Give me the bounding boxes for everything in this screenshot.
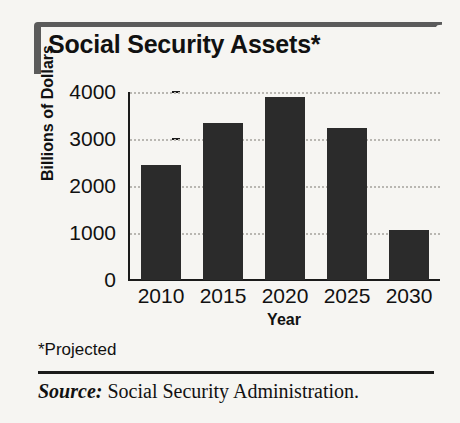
x-tick-label: 2020 xyxy=(254,284,316,308)
y-tick-label: 3000 xyxy=(69,128,116,149)
chart-title: Social Security Assets* xyxy=(48,30,320,59)
y-tick-label: 1000 xyxy=(69,222,116,243)
plot-area xyxy=(128,92,440,280)
y-tick-label: 2000 xyxy=(69,175,116,196)
bar xyxy=(141,165,181,280)
divider xyxy=(38,371,434,374)
source-line: Source: Social Security Administration. xyxy=(38,380,359,403)
source-label: Source: xyxy=(38,380,102,402)
x-axis-tick-labels: 20102015202020252030 xyxy=(128,284,440,310)
x-axis-label: Year xyxy=(128,311,440,329)
bar xyxy=(389,230,429,280)
x-tick-label: 2025 xyxy=(316,284,378,308)
x-tick-label: 2010 xyxy=(130,284,192,308)
source-text: Social Security Administration. xyxy=(102,380,359,402)
x-tick-label: 2030 xyxy=(378,284,440,308)
y-axis-tick-labels: 01000200030004000 xyxy=(52,84,116,284)
y-tick-label: 4000 xyxy=(69,81,116,102)
bar-series xyxy=(130,92,440,280)
x-tick-label: 2015 xyxy=(192,284,254,308)
chart-figure: Social Security Assets* Billions of Doll… xyxy=(0,0,460,423)
bar xyxy=(327,128,367,280)
footnote: *Projected xyxy=(38,340,116,360)
bar xyxy=(203,123,243,280)
decorative-bracket-horizontal xyxy=(36,22,440,27)
y-tick-label: 0 xyxy=(104,269,116,290)
bar xyxy=(265,97,305,280)
